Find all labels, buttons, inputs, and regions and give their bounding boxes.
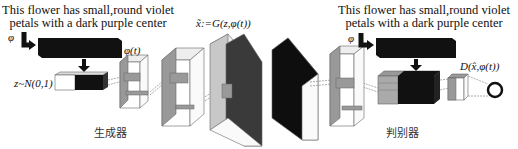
discriminator-final-block [448, 74, 488, 100]
output-node-icon [488, 83, 502, 97]
generated-image-block [210, 34, 262, 146]
phi-label: φ [348, 32, 354, 44]
phi-arrow-icon [361, 33, 374, 50]
phi-arrow-icon [24, 32, 36, 50]
generator-conv-block-1 [120, 55, 148, 108]
down-arrow-icon [410, 59, 422, 71]
discriminator-output-label: D(x̂,φ(t)) [460, 60, 499, 72]
generator-conv-block-2 [162, 48, 204, 126]
discriminator-input-image-block [272, 38, 318, 140]
down-arrow-icon [78, 59, 90, 72]
caption-line-2: petals with a dark purple center [2, 17, 174, 30]
embedding-label: φ(t) [124, 44, 140, 56]
discriminator-caption: This flower has small,round violet petal… [330, 4, 518, 30]
text-embedding-bar [376, 38, 456, 58]
generator-caption: This flower has small,round violet petal… [2, 4, 174, 30]
text-embedding-bar [38, 38, 122, 58]
discriminator-conv-block [330, 46, 364, 126]
feature-concat-block [378, 71, 440, 104]
caption-line-2: petals with a dark purple center [330, 17, 518, 30]
generator-section-label: 生成器 [94, 124, 127, 140]
discriminator-section-label: 判别器 [386, 124, 419, 140]
noise-concat-block [55, 72, 108, 90]
noise-label: z~N(0,1) [14, 77, 53, 89]
generator-output-label: x̃:=G(z,φ(t)) [196, 17, 251, 29]
phi-label: φ [8, 31, 14, 43]
